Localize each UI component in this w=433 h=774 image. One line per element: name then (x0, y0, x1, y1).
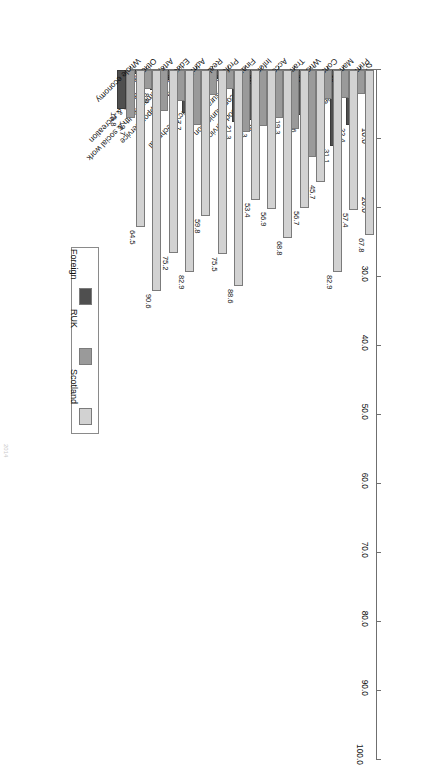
legend-label: Foreign (69, 249, 79, 280)
axis-tick (376, 138, 381, 139)
bar-scotland (169, 70, 178, 253)
bar-value-label: 56.7 (292, 211, 301, 225)
legend-label: Scotland (69, 369, 79, 404)
bar-value-label: 59.8 (194, 219, 203, 233)
bar-value-label: 75.2 (161, 257, 170, 271)
bar-scotland (316, 70, 325, 182)
value-axis-line (376, 70, 377, 760)
bar-value-label: 19.7 (118, 121, 127, 135)
bar-scotland (202, 70, 211, 216)
axis-tick (376, 276, 381, 277)
axis-tick-label: 80.0 (360, 611, 370, 627)
bar-value-label: 53.4 (243, 203, 252, 217)
axis-tick-label: 60.0 (360, 473, 370, 489)
bar-scotland (251, 70, 260, 200)
figure-caption: 2014 (3, 444, 9, 457)
axis-tick-label: 40.0 (360, 335, 370, 351)
axis-tick-label: 50.0 (360, 404, 370, 420)
bar-chart-figure: 0.010.020.030.040.050.060.070.080.090.01… (0, 0, 433, 774)
axis-tick (376, 345, 381, 346)
bar-value-label: 57.4 (341, 213, 350, 227)
bar-scotland (300, 70, 309, 208)
axis-tick (376, 69, 381, 70)
bar-scotland (333, 70, 342, 272)
bar-scotland (284, 70, 293, 238)
axis-tick-label: 30.0 (360, 266, 370, 282)
legend-item-ruk: RUK (72, 305, 98, 365)
legend-swatch (79, 288, 92, 305)
bar-value-label: 82.9 (177, 275, 186, 289)
bar-scotland (234, 70, 243, 286)
axis-tick (376, 414, 381, 415)
bar-value-label: 88.6 (226, 289, 235, 303)
legend-swatch (79, 408, 92, 425)
axis-tick-label: 100.0 (355, 744, 365, 765)
bar-scotland (185, 70, 194, 272)
bar-scotland (366, 70, 375, 235)
axis-tick (376, 552, 381, 553)
bar-value-label: 90.6 (144, 294, 153, 308)
bar-scotland (218, 70, 227, 254)
bar-ruk (126, 70, 135, 118)
bar-scotland (136, 70, 145, 227)
axis-tick (376, 621, 381, 622)
axis-tick (376, 690, 381, 691)
bar-value-label: 45.7 (308, 185, 317, 199)
axis-tick (376, 483, 381, 484)
rotated-figure-wrapper: 0.010.020.030.040.050.060.070.080.090.01… (0, 0, 433, 774)
bar-value-label: 82.9 (325, 275, 334, 289)
legend-label: RUK (69, 309, 79, 328)
axis-tick-label: 90.0 (360, 680, 370, 696)
bar-value-label: 75.5 (210, 257, 219, 271)
legend-swatch (79, 348, 92, 365)
bar-value-label: 64.5 (128, 230, 137, 244)
bar-value-label: 68.8 (276, 241, 285, 255)
bar-value-label: 67.8 (358, 238, 367, 252)
plot-area: 0.010.020.030.040.050.060.070.080.090.01… (131, 70, 377, 760)
axis-tick (376, 207, 381, 208)
bar-value-label: 56.9 (259, 212, 268, 226)
legend-item-scotland: Scotland (72, 365, 98, 425)
bar-scotland (152, 70, 161, 291)
bar-scotland (267, 70, 276, 209)
axis-tick-label: 70.0 (360, 542, 370, 558)
bar-value-label: 15.8 (109, 112, 118, 126)
chart-legend: ScotlandRUKForeign (71, 247, 99, 434)
legend-item-foreign: Foreign (72, 245, 98, 305)
bar-scotland (349, 70, 358, 210)
axis-tick (376, 759, 381, 760)
